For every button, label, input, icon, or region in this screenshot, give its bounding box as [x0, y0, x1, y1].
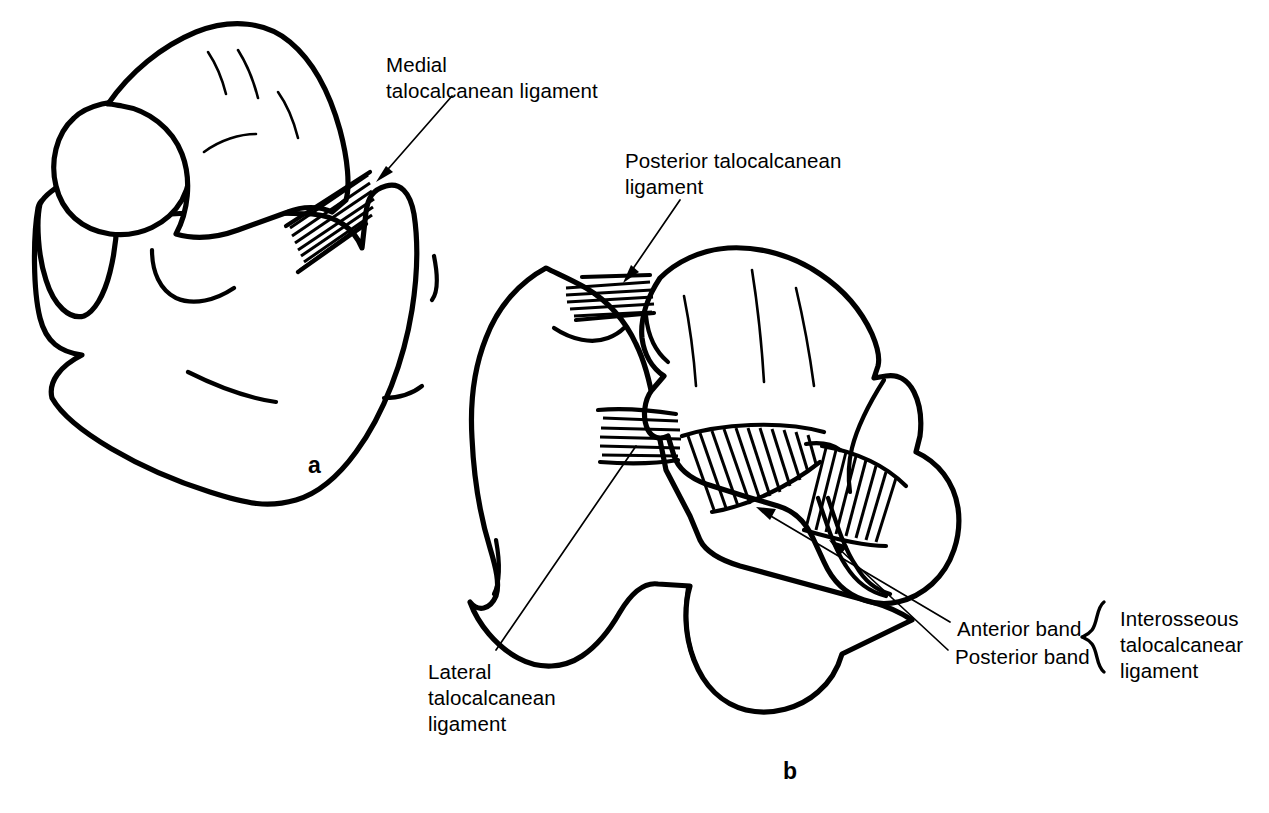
anatomical-figure: Medial talocalcanean ligament Posterior … — [0, 0, 1269, 813]
label-interosseous-line-2: talocalcanear — [1120, 632, 1243, 658]
label-interosseous-line-3: ligament — [1120, 658, 1243, 684]
label-lateral-line-1: Lateral — [428, 659, 556, 685]
panel-a-drawing — [34, 24, 436, 504]
panel-b-drawing — [470, 248, 959, 712]
panel-letter-a: a — [308, 452, 321, 479]
figure-drawing — [0, 0, 1269, 813]
leader-medial-talocalcanean — [382, 96, 452, 176]
label-lateral-talocalcanean-ligament: Lateral talocalcanean ligament — [428, 659, 556, 737]
arrowhead-medial-talocalcanean — [376, 166, 393, 182]
label-posterior-talocalcanean-ligament: Posterior talocalcanean ligament — [625, 148, 842, 200]
label-lateral-line-2: talocalcanean — [428, 685, 556, 711]
panel-letter-b: b — [783, 758, 797, 785]
label-posterior-line-1: Posterior talocalcanean — [625, 148, 842, 174]
calcaneus-a-lateral-crease — [432, 256, 437, 300]
label-medial-talocalcanean-ligament: Medial talocalcanean ligament — [386, 52, 598, 104]
posterior-ligament-b-upper-edge — [582, 275, 650, 277]
label-interosseous-talocalcanear-ligament: Interosseous talocalcanear ligament — [1120, 606, 1243, 684]
label-posterior-band: Posterior band — [955, 644, 1090, 670]
label-posterior-line-2: ligament — [625, 174, 842, 200]
label-lateral-line-3: ligament — [428, 711, 556, 737]
label-medial-line-2: talocalcanean ligament — [386, 78, 598, 104]
label-interosseous-line-1: Interosseous — [1120, 606, 1243, 632]
label-medial-line-1: Medial — [386, 52, 598, 78]
label-anterior-band: Anterior band — [957, 616, 1081, 642]
